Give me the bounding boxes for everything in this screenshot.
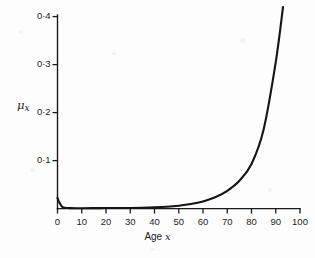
- x-axis-title-variable: x: [165, 231, 171, 242]
- chart-figure: 0·10·20·30·4 0102030405060708090100 μx A…: [0, 0, 315, 258]
- x-tick-label: 40: [143, 216, 167, 227]
- x-tick-label: 0: [46, 216, 70, 227]
- x-tick-label: 30: [118, 216, 142, 227]
- x-tick-label: 100: [288, 216, 312, 227]
- x-axis-ticks: [58, 209, 301, 214]
- x-tick-label: 20: [94, 216, 118, 227]
- x-tick-label: 90: [264, 216, 288, 227]
- x-axis-title: Age x: [0, 231, 315, 242]
- x-axis-title-text: Age: [144, 231, 165, 242]
- mu-subscript-x: x: [24, 103, 29, 113]
- y-tick-label: 0·3: [25, 58, 51, 69]
- x-tick-label: 10: [70, 216, 94, 227]
- y-axis-ticks: [53, 17, 58, 161]
- y-tick-label: 0·1: [25, 154, 51, 165]
- y-axis-title: μx: [17, 98, 30, 113]
- x-tick-label: 80: [240, 216, 264, 227]
- x-tick-label: 60: [191, 216, 215, 227]
- x-tick-label: 70: [215, 216, 239, 227]
- x-tick-label: 50: [167, 216, 191, 227]
- y-tick-label: 0·4: [25, 10, 51, 21]
- axes: [58, 15, 301, 209]
- mortality-curve: [58, 7, 284, 208]
